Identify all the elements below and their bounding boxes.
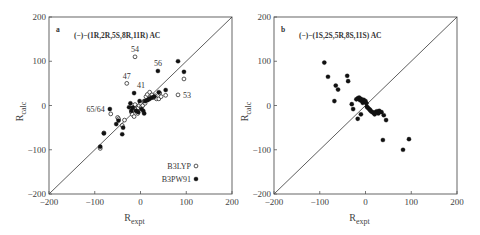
- y-axis-label: Rcalc: [14, 101, 28, 121]
- data-point-open: [133, 55, 137, 59]
- x-tick-label: −100: [310, 197, 329, 207]
- data-point-filled: [176, 59, 180, 63]
- data-point-filled: [136, 110, 140, 114]
- panel-a: −200−200−100−10000100100200200RexptRcalc…: [14, 12, 239, 226]
- data-point-open: [125, 81, 129, 85]
- data-point-filled: [332, 99, 336, 103]
- y-axis-label: Rcalc: [239, 101, 253, 121]
- legend-label: B3PW91: [162, 175, 191, 184]
- x-axis-label: Rexpt: [124, 212, 145, 226]
- data-point-open: [176, 93, 180, 97]
- point-annotation: 56: [154, 59, 162, 68]
- y-tick-label: −100: [27, 145, 46, 155]
- data-point-filled: [131, 106, 135, 110]
- x-tick-label: 0: [363, 197, 368, 207]
- y-tick-label: 0: [42, 101, 47, 111]
- data-point-filled: [182, 70, 186, 74]
- panel-title: (−)−(1R,2R,5S,8R,11R) AC: [74, 31, 160, 40]
- panel-label: b: [281, 25, 285, 34]
- data-point-open: [182, 77, 186, 81]
- data-point-filled: [346, 79, 350, 83]
- x-tick-label: 200: [450, 197, 464, 207]
- data-point-open: [164, 93, 168, 97]
- data-point-filled: [384, 118, 388, 122]
- data-point-filled: [102, 131, 106, 135]
- point-annotation: 65/64: [87, 105, 105, 114]
- data-point-open: [123, 118, 127, 122]
- data-point-filled: [407, 137, 411, 141]
- data-point-filled: [382, 113, 386, 117]
- data-point-filled: [381, 138, 385, 142]
- point-annotation: 53: [183, 91, 191, 100]
- data-point-open: [109, 112, 113, 116]
- y-tick-label: −200: [27, 189, 46, 199]
- y-tick-label: −200: [252, 189, 271, 199]
- legend-marker-filled: [194, 177, 198, 181]
- panel-label: a: [56, 25, 60, 34]
- data-point-filled: [108, 107, 112, 111]
- data-point-filled: [98, 145, 102, 149]
- panel-title: (−)−(1S,2S,5R,8S,11S) AC: [299, 31, 382, 40]
- y-tick-label: 100: [33, 56, 47, 66]
- y-tick-label: 200: [258, 12, 272, 22]
- data-point-filled: [334, 83, 338, 87]
- data-point-filled: [128, 101, 132, 105]
- data-point-filled: [356, 117, 360, 121]
- data-point-filled: [164, 88, 168, 92]
- data-point-filled: [157, 90, 161, 94]
- data-point-filled: [156, 69, 160, 73]
- chart-figure: −200−200−100−10000100100200200RexptRcalc…: [0, 0, 480, 235]
- data-point-filled: [345, 74, 349, 78]
- panel-b: −200−200−100−10000100100200200RexptRcalc…: [239, 12, 464, 226]
- x-tick-label: 100: [405, 197, 419, 207]
- legend-label: B3LYP: [167, 162, 191, 171]
- data-point-filled: [152, 95, 156, 99]
- x-tick-label: 100: [180, 197, 194, 207]
- data-point-filled: [121, 126, 125, 130]
- data-point-filled: [326, 75, 330, 79]
- data-point-filled: [359, 112, 363, 116]
- data-point-filled: [142, 111, 146, 115]
- data-point-filled: [336, 87, 340, 91]
- point-annotation: 41: [137, 81, 145, 90]
- data-point-filled: [132, 91, 136, 95]
- data-point-filled: [137, 99, 141, 103]
- data-point-open: [159, 95, 163, 99]
- y-tick-label: −100: [252, 145, 271, 155]
- data-point-filled: [322, 60, 326, 64]
- y-tick-label: 100: [258, 56, 272, 66]
- x-tick-label: 200: [225, 197, 239, 207]
- point-annotation: 47: [123, 72, 131, 81]
- data-point-filled: [351, 107, 355, 111]
- x-tick-label: 0: [138, 197, 143, 207]
- y-tick-label: 200: [33, 12, 47, 22]
- data-point-filled: [350, 102, 354, 106]
- data-point-filled: [120, 132, 124, 136]
- legend-marker-open: [194, 164, 198, 168]
- y-tick-label: 0: [267, 101, 272, 111]
- x-tick-label: −100: [85, 197, 104, 207]
- point-annotation: 54: [131, 45, 139, 54]
- data-point-open: [132, 115, 136, 119]
- data-point-filled: [401, 148, 405, 152]
- data-point-filled: [116, 118, 120, 122]
- x-axis-label: Rexpt: [349, 212, 370, 226]
